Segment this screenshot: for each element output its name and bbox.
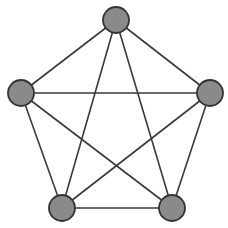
graph-node-n4[interactable] [8,80,34,106]
graph-node-circle[interactable] [159,195,185,221]
graph-edge-n0-n3 [62,20,116,208]
graph-node-n1[interactable] [197,80,223,106]
graph-figure [0,0,228,228]
graph-node-circle[interactable] [197,80,223,106]
graph-edge-n3-n4 [21,93,62,208]
node-layer [8,7,223,221]
graph-edge-n0-n2 [116,20,172,208]
graph-node-n2[interactable] [159,195,185,221]
graph-edge-n4-n0 [21,20,116,93]
graph-node-n0[interactable] [103,7,129,33]
graph-node-circle[interactable] [103,7,129,33]
graph-edge-n1-n2 [172,93,210,208]
graph-edge-n0-n1 [116,20,210,93]
graph-node-circle[interactable] [8,80,34,106]
graph-canvas [0,0,228,228]
graph-edge-n2-n4 [21,93,172,208]
graph-edge-n1-n3 [62,93,210,208]
graph-node-circle[interactable] [49,195,75,221]
edge-layer [21,20,210,208]
graph-node-n3[interactable] [49,195,75,221]
